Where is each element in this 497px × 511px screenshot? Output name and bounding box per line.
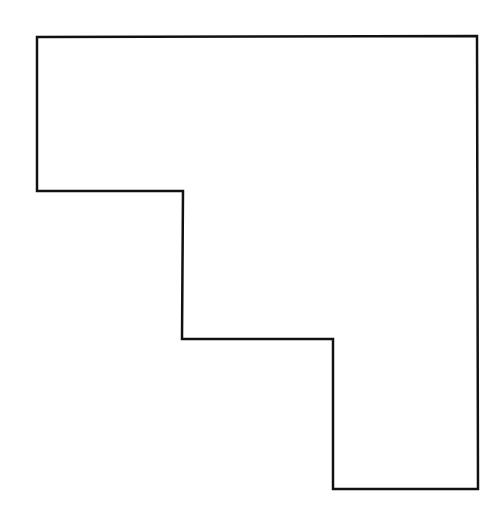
staircase-polygon [37, 36, 478, 489]
diagram-canvas [0, 0, 497, 511]
